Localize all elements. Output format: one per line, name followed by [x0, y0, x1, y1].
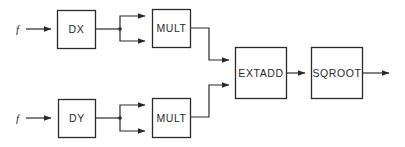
mult-top-to-extadd [191, 28, 230, 60]
block-sqroot: SQROOT [312, 48, 363, 99]
dy-to-mult-bottom-b [120, 118, 145, 131]
block-dx: DX [58, 11, 96, 49]
block-mult-bottom-label: MULT [156, 112, 186, 124]
block-extadd: EXTADD [236, 48, 287, 99]
block-diagram: f DX MULT f DY MULT EXTADD SQROOT [0, 0, 405, 147]
block-dy-label: DY [69, 112, 85, 124]
dx-to-mult-top-b [120, 29, 145, 41]
dy-to-mult-bottom-a [120, 105, 145, 118]
block-mult-top: MULT [153, 10, 191, 48]
input-label-bottom: f [16, 112, 21, 124]
block-sqroot-label: SQROOT [312, 67, 361, 79]
block-dy: DY [59, 100, 96, 138]
block-dx-label: DX [69, 23, 85, 35]
mult-bottom-to-extadd [191, 85, 230, 117]
block-mult-bottom: MULT [153, 99, 191, 138]
block-extadd-label: EXTADD [238, 67, 283, 79]
block-mult-top-label: MULT [156, 22, 186, 34]
input-label-top: f [16, 23, 21, 35]
dx-to-mult-top-a [120, 16, 145, 29]
